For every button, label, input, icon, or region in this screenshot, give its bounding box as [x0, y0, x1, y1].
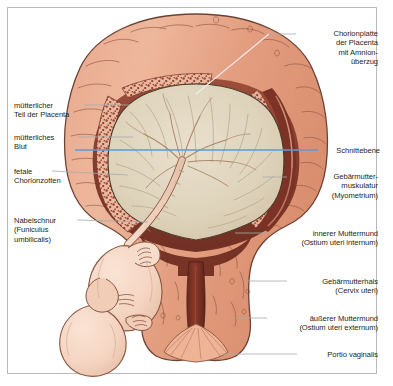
label-cervix-uteri: Gebärmutterhals (Cervix uteri): [290, 277, 378, 296]
label-myometrium: Gebärmutter- muskulatur (Myometrium): [290, 172, 378, 200]
anatomy-figure: mütterlicher Teil der Placenta mütterlic…: [0, 0, 393, 386]
label-umbilical-cord: Nabelschnur (Funiculus umbilicalis): [14, 216, 98, 244]
label-section-plane: Schnittebene: [318, 146, 380, 155]
label-fetal-chorionic-villi: fetale Chorionzotten: [14, 167, 106, 186]
label-maternal-placenta: mütterlicher Teil der Placenta: [14, 101, 106, 120]
label-portio-vaginalis: Portio vaginalis: [300, 350, 378, 359]
fetus: [60, 242, 162, 376]
label-maternal-blood: mütterliches Blut: [14, 133, 98, 152]
label-internal-os: innerer Muttermund (Ostium uteri internu…: [268, 229, 378, 248]
chorionic-plate-cavity: [108, 84, 284, 240]
label-external-os: äußerer Muttermund (Ostium uteri externu…: [268, 314, 378, 333]
label-chorionic-plate: Chorionplatte der Placenta mit Amnion- ü…: [300, 29, 378, 67]
